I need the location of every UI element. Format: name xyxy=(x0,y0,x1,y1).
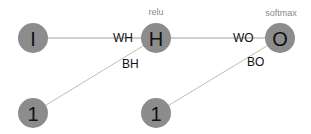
edge-label-bh: BH xyxy=(122,57,139,71)
activation-output: softmax xyxy=(265,8,297,18)
edge-bh xyxy=(33,38,156,113)
node-hidden-label: H xyxy=(149,28,163,50)
node-input-label: I xyxy=(30,28,36,50)
edge-bo xyxy=(156,38,280,113)
edge-label-wo: WO xyxy=(233,31,254,45)
edge-label-wh: WH xyxy=(113,31,133,45)
network-diagram: WH BH WO BO relu softmax I H O 1 1 xyxy=(0,0,311,134)
node-bias-hidden-label: 1 xyxy=(27,103,38,125)
edge-label-bo: BO xyxy=(247,55,264,69)
node-output-label: O xyxy=(272,28,288,50)
activation-hidden: relu xyxy=(148,7,163,17)
node-bias-output-label: 1 xyxy=(150,103,161,125)
